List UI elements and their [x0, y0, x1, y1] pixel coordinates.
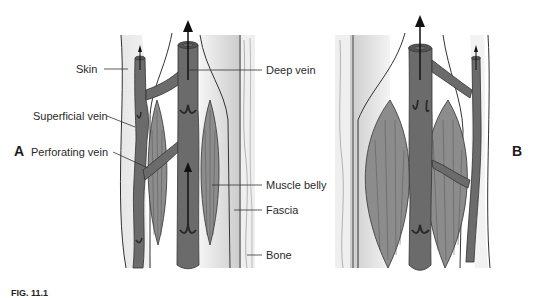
- label-fascia: Fascia: [266, 204, 298, 216]
- panel-a-illustration: [120, 20, 255, 269]
- panel-b-illustration: [335, 15, 490, 270]
- label-deep-vein: Deep vein: [266, 64, 316, 76]
- label-bone: Bone: [266, 249, 292, 261]
- panel-label-b: B: [512, 143, 522, 159]
- label-muscle-belly: Muscle belly: [266, 179, 327, 191]
- figure-caption: FIG. 11.1: [11, 288, 48, 298]
- label-perforating-vein: Perforating vein: [31, 146, 108, 158]
- label-superficial-vein: Superficial vein: [33, 110, 108, 122]
- panel-label-a: A: [14, 143, 24, 159]
- label-skin: Skin: [76, 63, 97, 75]
